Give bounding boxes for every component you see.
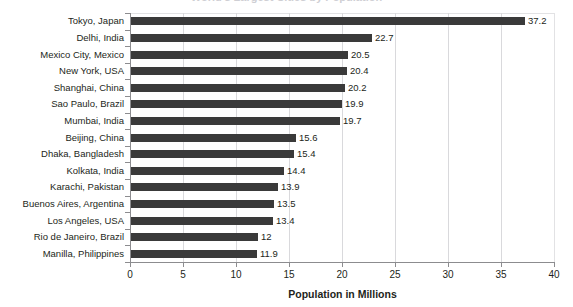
y-axis-label: Mumbai, India [0,116,124,126]
x-axis-tick-label: 30 [442,269,453,280]
bar-value-label: 13.9 [281,182,300,192]
y-axis-label: New York, USA [0,66,124,76]
y-axis-label: Sao Paulo, Brazil [0,99,124,109]
chart-title-text: World's Largest Cities by Population [191,0,382,1]
bar-value-label: 20.4 [350,66,369,76]
bar-value-label: 14.4 [287,166,306,176]
y-axis-label: Dhaka, Bangladesh [0,149,124,159]
bar [131,117,340,125]
gridline-x-35 [501,13,502,262]
bar-value-label: 15.4 [297,149,316,159]
y-axis-tick [125,179,130,180]
y-axis-tick [125,63,130,64]
y-axis-tick [125,146,130,147]
bar [131,84,345,92]
y-axis-tick [125,196,130,197]
bar [131,100,342,108]
x-axis-tick-25 [395,262,396,267]
bar [131,150,294,158]
bar [131,250,257,258]
x-axis-tick-label: 5 [180,269,186,280]
bar-value-label: 19.9 [345,99,364,109]
bar-value-label: 12 [261,232,272,242]
y-axis-tick [125,96,130,97]
y-axis-label: Karachi, Pakistan [0,182,124,192]
x-axis-tick-20 [342,262,343,267]
y-axis-tick [125,46,130,47]
bar [131,34,372,42]
x-axis-tick-30 [448,262,449,267]
x-axis-tick-0 [130,262,131,267]
bar [131,67,347,75]
y-axis-label: Beijing, China [0,133,124,143]
gridline-x-30 [448,13,449,262]
x-axis-title: Population in Millions [130,288,555,300]
y-axis-category-labels: Tokyo, JapanDelhi, IndiaMexico City, Mex… [0,13,124,262]
chart-title-cutoff: World's Largest Cities by Population [0,0,573,7]
y-axis-label: Shanghai, China [0,83,124,93]
y-axis-tick [125,229,130,230]
y-axis-tick [125,162,130,163]
y-axis-label: Tokyo, Japan [0,16,124,26]
y-axis-label: Buenos Aires, Argentina [0,199,124,209]
bar-value-label: 13.4 [276,216,295,226]
x-axis-tick-label: 35 [495,269,506,280]
x-axis-tick-label: 15 [283,269,294,280]
x-axis-tick-label: 25 [389,269,400,280]
y-axis-tick [125,113,130,114]
y-axis-tick [125,212,130,213]
y-axis-tick [125,245,130,246]
y-axis-label: Kolkata, India [0,166,124,176]
bar [131,233,258,241]
y-axis-label: Manilla, Philippines [0,249,124,259]
x-axis-tick-10 [236,262,237,267]
bar-value-label: 20.2 [348,83,367,93]
x-axis-tick-15 [289,262,290,267]
bar [131,17,525,25]
bar-value-label: 37.2 [528,16,547,26]
bar-value-label: 15.6 [299,133,318,143]
bar [131,217,273,225]
x-axis-tick-5 [183,262,184,267]
bar-value-label: 11.9 [260,249,278,259]
x-axis-tick-label: 0 [127,269,133,280]
y-axis-tick [125,13,130,14]
gridline-x-25 [395,13,396,262]
y-axis-tick [125,79,130,80]
y-axis-tick [125,30,130,31]
bar [131,134,296,142]
x-axis-tick-40 [554,262,555,267]
bar [131,183,278,191]
x-axis-tick-label: 10 [230,269,241,280]
bar [131,51,348,59]
y-axis-label: Rio de Janeiro, Brazil [0,232,124,242]
bar-value-label: 19.7 [343,116,362,126]
bar-chart: World's Largest Cities by Population Tok… [0,0,573,307]
x-axis-tick-label: 20 [336,269,347,280]
x-axis-tick-label: 40 [548,269,559,280]
y-axis-tick [125,129,130,130]
bar [131,200,274,208]
bar-value-label: 13.5 [277,199,296,209]
y-axis-label: Mexico City, Mexico [0,50,124,60]
bar [131,167,284,175]
bar-value-label: 22.7 [375,33,394,43]
bar-value-label: 20.5 [351,50,370,60]
y-axis-label: Los Angeles, USA [0,216,124,226]
y-axis-label: Delhi, India [0,33,124,43]
x-axis-tick-35 [501,262,502,267]
